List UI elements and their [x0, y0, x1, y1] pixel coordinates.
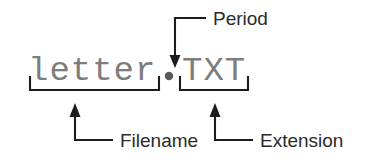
period-arrowhead: [170, 55, 181, 68]
extension-arrowhead: [210, 103, 221, 117]
diagram-canvas: letter TXT Period Filename Extension: [0, 0, 370, 159]
extension-label: Extension: [260, 130, 343, 151]
filename-base-text: letter: [28, 52, 156, 90]
extension-text: TXT: [182, 52, 246, 90]
extension-connector-line: [215, 115, 252, 140]
period-dot: [165, 72, 173, 80]
filename-label: Filename: [120, 130, 198, 151]
filename-connector-line: [75, 115, 112, 140]
filename-anatomy-diagram: letter TXT Period Filename Extension: [0, 0, 370, 159]
filename-arrowhead: [70, 103, 81, 117]
period-label: Period: [213, 8, 268, 29]
